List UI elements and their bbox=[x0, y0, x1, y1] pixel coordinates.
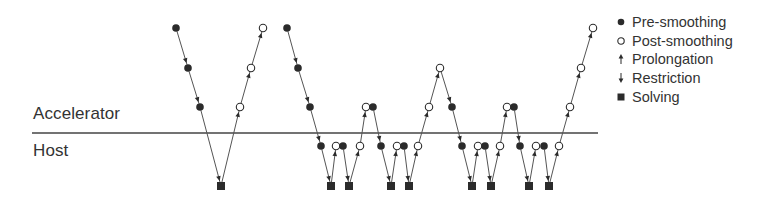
prolongation-arrow-icon bbox=[362, 112, 367, 117]
prolongation-arrow-icon bbox=[414, 151, 418, 156]
open-circle-icon bbox=[614, 34, 628, 48]
down-arrow-icon bbox=[614, 71, 628, 85]
prolongation-arrow-icon bbox=[532, 151, 537, 156]
pre-smoothing-node bbox=[448, 103, 456, 111]
restriction-arrow-icon bbox=[467, 176, 471, 181]
restriction-arrow-icon bbox=[545, 176, 550, 181]
pre-smoothing-node bbox=[294, 64, 302, 72]
solving-node bbox=[405, 182, 413, 190]
post-smoothing-node bbox=[566, 103, 573, 110]
solving-node bbox=[327, 182, 335, 190]
pre-smoothing-node bbox=[516, 142, 524, 150]
pre-smoothing-node bbox=[339, 142, 347, 150]
restriction-arrow-icon bbox=[525, 176, 529, 181]
filled-square-icon bbox=[614, 90, 628, 104]
restriction-arrow-icon bbox=[195, 97, 199, 102]
cycle-edge bbox=[201, 110, 220, 182]
pre-smoothing-node bbox=[196, 103, 204, 111]
solving-node bbox=[345, 182, 353, 190]
post-smoothing-node bbox=[555, 142, 562, 149]
restriction-arrow-icon bbox=[305, 97, 309, 102]
restriction-arrow-icon bbox=[405, 176, 410, 181]
post-smoothing-node bbox=[259, 24, 266, 31]
pre-smoothing-node bbox=[458, 142, 466, 150]
pre-smoothing-node bbox=[400, 142, 408, 150]
post-smoothing-node bbox=[236, 103, 243, 110]
accelerator-label: Accelerator bbox=[33, 104, 120, 124]
post-smoothing-node bbox=[503, 103, 510, 110]
host-label: Host bbox=[33, 141, 68, 161]
prolongation-arrow-icon bbox=[496, 151, 500, 156]
pre-smoothing-node bbox=[369, 103, 377, 111]
solving-node bbox=[525, 182, 533, 190]
solving-node bbox=[487, 182, 495, 190]
pre-smoothing-node bbox=[306, 103, 314, 111]
pre-smoothing-node bbox=[172, 24, 180, 32]
solving-node bbox=[387, 182, 395, 190]
legend-item-post-smoothing: Post-smoothing bbox=[614, 32, 733, 51]
solving-node bbox=[217, 182, 225, 190]
restriction-arrow-icon bbox=[516, 136, 521, 141]
legend-label: Prolongation bbox=[632, 51, 713, 67]
restriction-arrow-icon bbox=[447, 97, 451, 102]
legend-label: Restriction bbox=[632, 70, 701, 86]
pre-smoothing-node bbox=[540, 142, 548, 150]
filled-circle-icon bbox=[614, 15, 628, 29]
post-smoothing-node bbox=[247, 64, 254, 71]
prolongation-arrow-icon bbox=[235, 112, 239, 117]
post-smoothing-node bbox=[532, 142, 539, 149]
legend-item-restriction: Restriction bbox=[614, 69, 733, 88]
prolongation-arrow-icon bbox=[554, 151, 558, 156]
pre-smoothing-node bbox=[283, 24, 291, 32]
legend-label: Pre-smoothing bbox=[632, 14, 726, 30]
pre-smoothing-node bbox=[510, 103, 518, 111]
post-smoothing-node bbox=[589, 24, 596, 31]
post-smoothing-node bbox=[425, 103, 432, 110]
post-smoothing-node bbox=[393, 142, 400, 149]
post-smoothing-node bbox=[577, 64, 584, 71]
cycle-edge bbox=[222, 111, 239, 183]
pre-smoothing-node bbox=[481, 142, 489, 150]
post-smoothing-node bbox=[474, 142, 481, 149]
pre-smoothing-node bbox=[184, 64, 192, 72]
legend-item-prolongation: Prolongation bbox=[614, 50, 733, 69]
post-smoothing-node bbox=[436, 64, 443, 71]
up-arrow-icon bbox=[614, 52, 628, 66]
restriction-arrow-icon bbox=[345, 176, 350, 181]
prolongation-arrow-icon bbox=[474, 151, 479, 156]
prolongation-arrow-icon bbox=[393, 151, 398, 156]
post-smoothing-node bbox=[496, 142, 503, 149]
restriction-arrow-icon bbox=[386, 176, 390, 181]
solving-node bbox=[545, 182, 553, 190]
pre-smoothing-node bbox=[377, 142, 385, 150]
legend-item-solving: Solving bbox=[614, 87, 733, 106]
legend-label: Post-smoothing bbox=[632, 33, 733, 49]
restriction-arrow-icon bbox=[377, 136, 382, 141]
post-smoothing-node bbox=[332, 142, 339, 149]
pre-smoothing-node bbox=[317, 142, 325, 150]
restriction-arrow-icon bbox=[326, 176, 330, 181]
solving-node bbox=[468, 182, 476, 190]
prolongation-arrow-icon bbox=[332, 151, 337, 156]
post-smoothing-node bbox=[414, 142, 421, 149]
prolongation-arrow-icon bbox=[503, 112, 508, 117]
legend-item-pre-smoothing: Pre-smoothing bbox=[614, 13, 733, 32]
prolongation-arrow-icon bbox=[258, 33, 262, 38]
legend: Pre-smoothing Post-smoothing Prolongatio… bbox=[614, 13, 733, 106]
prolongation-arrow-icon bbox=[588, 33, 592, 38]
restriction-arrow-icon bbox=[487, 176, 492, 181]
restriction-arrow-icon bbox=[183, 58, 187, 63]
restriction-arrow-icon bbox=[457, 136, 461, 141]
legend-label: Solving bbox=[632, 89, 680, 105]
post-smoothing-node bbox=[356, 142, 363, 149]
post-smoothing-node bbox=[362, 103, 369, 110]
